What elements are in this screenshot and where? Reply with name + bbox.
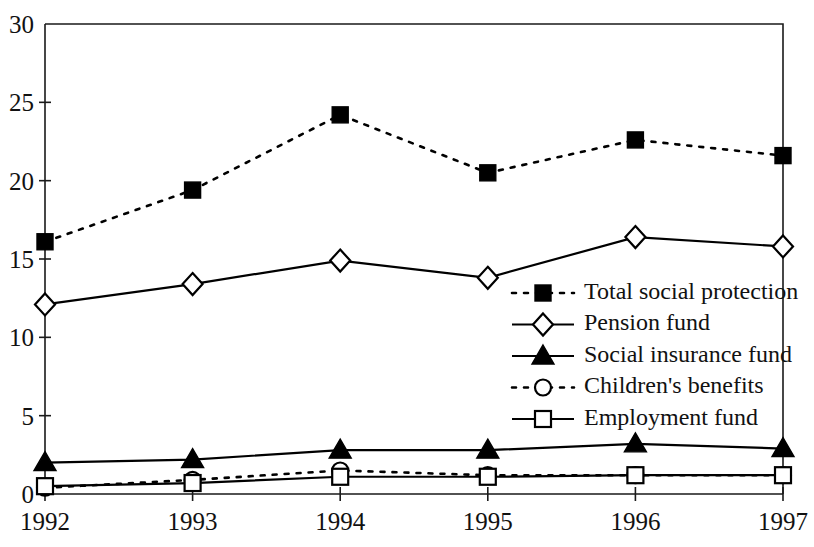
series-line bbox=[45, 115, 783, 242]
data-point-1997 bbox=[775, 467, 791, 483]
legend-label: Social insurance fund bbox=[584, 341, 792, 367]
legend-item-children-s-benefits[interactable]: Children's benefits bbox=[512, 372, 764, 398]
data-point-1995 bbox=[477, 439, 499, 458]
data-point-1996 bbox=[627, 467, 643, 483]
x-tick-label-1997: 1997 bbox=[758, 508, 808, 535]
chart-legend: Total social protectionPension fundSocia… bbox=[512, 278, 798, 430]
data-point-1996 bbox=[624, 433, 646, 452]
legend-label: Employment fund bbox=[584, 404, 758, 430]
legend-label: Pension fund bbox=[584, 309, 710, 335]
legend-item-employment-fund[interactable]: Employment fund bbox=[512, 404, 758, 430]
legend-label: Total social protection bbox=[584, 278, 798, 304]
series-line bbox=[45, 471, 783, 488]
y-tick-label-25: 25 bbox=[9, 89, 34, 116]
legend-marker bbox=[535, 285, 551, 301]
data-point-1997 bbox=[775, 148, 791, 164]
chart-canvas: 051015202530 199219931994199519961997 To… bbox=[0, 0, 814, 547]
legend-item-total-social-protection[interactable]: Total social protection bbox=[512, 278, 798, 304]
data-point-1994 bbox=[329, 439, 351, 458]
data-point-1995 bbox=[480, 469, 496, 485]
data-point-1992 bbox=[34, 452, 56, 471]
legend-marker bbox=[532, 345, 554, 364]
data-point-1993 bbox=[183, 273, 203, 295]
series-line bbox=[45, 444, 783, 463]
data-point-1995 bbox=[478, 267, 498, 289]
x-tick-label-1996: 1996 bbox=[610, 508, 660, 535]
y-tick-label-0: 0 bbox=[22, 481, 35, 508]
legend-marker bbox=[535, 411, 551, 427]
x-tick-label-1993: 1993 bbox=[168, 508, 218, 535]
x-tick-label-1995: 1995 bbox=[463, 508, 513, 535]
legend-item-social-insurance-fund[interactable]: Social insurance fund bbox=[512, 341, 792, 367]
data-point-1993 bbox=[185, 182, 201, 198]
y-tick-label-10: 10 bbox=[9, 324, 34, 351]
y-tick-label-20: 20 bbox=[9, 168, 34, 195]
series-employment-fund bbox=[37, 467, 791, 494]
legend-marker bbox=[535, 380, 551, 396]
data-point-1992 bbox=[37, 478, 53, 494]
x-tick-label-1994: 1994 bbox=[315, 508, 366, 535]
data-point-1992 bbox=[37, 234, 53, 250]
line-chart: 051015202530 199219931994199519961997 To… bbox=[0, 0, 814, 547]
series-children-s-benefits bbox=[37, 463, 791, 496]
legend-item-pension-fund[interactable]: Pension fund bbox=[512, 309, 710, 336]
series-total-social-protection bbox=[37, 107, 791, 250]
x-tick-label-1992: 1992 bbox=[20, 508, 70, 535]
y-tick-label-15: 15 bbox=[9, 246, 34, 273]
y-axis-labels: 051015202530 bbox=[9, 11, 34, 508]
data-point-1994 bbox=[330, 250, 350, 272]
y-tick-label-30: 30 bbox=[9, 11, 34, 38]
legend-marker bbox=[533, 314, 553, 336]
x-axis-labels: 199219931994199519961997 bbox=[20, 508, 808, 535]
legend-label: Children's benefits bbox=[584, 372, 764, 398]
series-social-insurance-fund bbox=[34, 433, 794, 471]
data-point-1992 bbox=[35, 293, 55, 315]
data-point-1996 bbox=[625, 226, 645, 248]
data-point-1997 bbox=[773, 235, 793, 257]
y-tick-label-5: 5 bbox=[22, 403, 35, 430]
data-point-1993 bbox=[185, 475, 201, 491]
data-point-1996 bbox=[627, 132, 643, 148]
data-point-1995 bbox=[480, 165, 496, 181]
data-point-1997 bbox=[772, 438, 794, 457]
data-point-1994 bbox=[332, 469, 348, 485]
data-point-1994 bbox=[332, 107, 348, 123]
